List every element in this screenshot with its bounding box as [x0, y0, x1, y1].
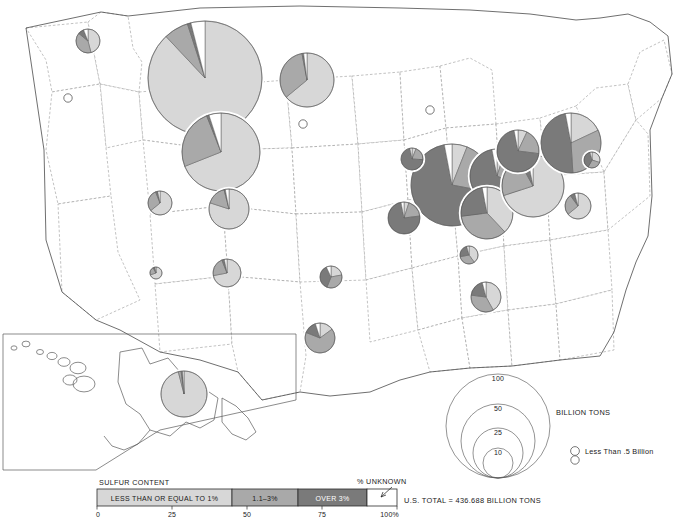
- pie-missouri[interactable]: [387, 201, 421, 235]
- sulfur-content-heading: SULFUR CONTENT: [99, 478, 170, 487]
- coal-sulfur-map: 100502510BILLION TONSLess Than .5 Billio…: [0, 0, 690, 526]
- size-ring-label-50: 50: [494, 405, 502, 412]
- state-boundary: [462, 310, 512, 368]
- hawaii-island: [73, 376, 95, 392]
- pie-virginia[interactable]: [564, 192, 592, 220]
- pie-ohio[interactable]: [496, 129, 540, 173]
- state-boundary: [504, 240, 556, 310]
- alaska-southeast: [222, 398, 256, 440]
- pie-tennessee[interactable]: [459, 245, 479, 265]
- legend-tick-label: 25: [168, 511, 176, 518]
- state-boundary: [412, 256, 462, 330]
- small-marker-nevada[interactable]: [64, 94, 72, 102]
- state-boundary: [100, 84, 143, 148]
- pie-new-mexico[interactable]: [212, 258, 242, 288]
- map-canvas: 100502510BILLION TONSLess Than .5 Billio…: [0, 0, 690, 526]
- legend-swatch-label-medium: 1.1–3%: [252, 495, 278, 502]
- small-size-marker: [571, 447, 580, 456]
- pie-washington[interactable]: [75, 28, 101, 54]
- pie-utah[interactable]: [147, 190, 173, 216]
- state-boundary: [628, 40, 672, 120]
- size-legend: 100502510BILLION TONSLess Than .5 Billio…: [446, 374, 654, 478]
- legend-tick-label: 100%: [380, 511, 399, 518]
- legend-swatch-unknown[interactable]: [367, 489, 397, 506]
- size-ring-label-100: 100: [492, 375, 504, 382]
- hawaii-island: [22, 341, 30, 347]
- state-boundary: [366, 268, 418, 342]
- small-marker-michigan[interactable]: [426, 106, 434, 114]
- legend-swatch-label-low: LESS THAN OR EQUAL TO 1%: [111, 495, 218, 503]
- size-ring-label-10: 10: [494, 449, 502, 456]
- state-boundary: [440, 58, 496, 128]
- size-ring-50: [461, 404, 535, 478]
- state-boundary: [46, 84, 111, 204]
- small-marker-nebraska[interactable]: [299, 120, 307, 128]
- billion-tons-label: BILLION TONS: [556, 408, 610, 417]
- state-boundary: [508, 304, 560, 366]
- pie-maryland[interactable]: [583, 151, 601, 169]
- sulfur-legend: SULFUR CONTENTLESS THAN OR EQUAL TO 1%1.…: [96, 477, 541, 518]
- pie-oklahoma[interactable]: [319, 265, 343, 289]
- pie-alabama[interactable]: [470, 281, 502, 313]
- hawaii-island: [47, 352, 57, 359]
- inset-shapes: [11, 341, 256, 450]
- alaska-peninsula: [104, 430, 150, 450]
- legend-tick-label: 50: [243, 511, 251, 518]
- pie-texas[interactable]: [304, 322, 336, 354]
- hawaii-island: [11, 346, 17, 350]
- pie-colorado[interactable]: [208, 188, 250, 230]
- size-ring-100: [446, 374, 550, 478]
- state-boundary: [400, 66, 446, 140]
- state-boundary: [228, 276, 306, 400]
- hawaii-island: [58, 358, 70, 367]
- pie-alaska[interactable]: [160, 370, 208, 418]
- small-marker-georgia[interactable]: [571, 456, 579, 464]
- us-total-label: U.S. TOTAL = 436.688 BILLION TONS: [404, 496, 541, 505]
- state-boundary: [58, 196, 140, 320]
- percent-unknown-label: % UNKNOWN: [357, 477, 406, 486]
- pie-wyoming[interactable]: [181, 112, 261, 192]
- pie-north-dakota[interactable]: [279, 52, 335, 108]
- state-boundary: [292, 144, 362, 214]
- hawaii-island: [70, 362, 86, 374]
- small-size-note: Less Than .5 Billion: [585, 447, 654, 456]
- size-ring-label-25: 25: [494, 429, 502, 436]
- legend-tick-label: 75: [318, 511, 326, 518]
- state-boundary: [352, 72, 404, 144]
- hawaii-island: [37, 349, 44, 354]
- pie-iowa[interactable]: [400, 147, 424, 171]
- legend-swatch-label-high: OVER 3%: [316, 495, 350, 502]
- pie-arizona[interactable]: [149, 266, 163, 280]
- legend-tick-label: 0: [96, 511, 100, 518]
